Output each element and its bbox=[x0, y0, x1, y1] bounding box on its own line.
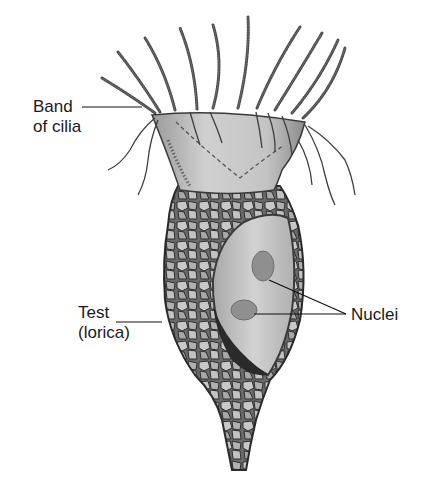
cilia-band bbox=[102, 17, 345, 118]
label-band-line2: of cilia bbox=[33, 117, 81, 137]
label-band-of-cilia: Band of cilia bbox=[33, 97, 81, 137]
tintinnid-diagram: Band of cilia Test (lorica) Nuclei bbox=[0, 0, 437, 501]
nucleus-upper bbox=[252, 251, 274, 281]
label-band-line1: Band bbox=[33, 97, 81, 117]
label-test-lorica: Test (lorica) bbox=[78, 303, 130, 343]
label-nuclei: Nuclei bbox=[351, 305, 398, 325]
label-test-line2: (lorica) bbox=[78, 323, 130, 343]
nucleus-lower bbox=[231, 300, 257, 320]
tintinnid-illustration bbox=[0, 0, 437, 501]
label-nuclei-line1: Nuclei bbox=[351, 305, 398, 325]
label-test-line1: Test bbox=[78, 303, 130, 323]
